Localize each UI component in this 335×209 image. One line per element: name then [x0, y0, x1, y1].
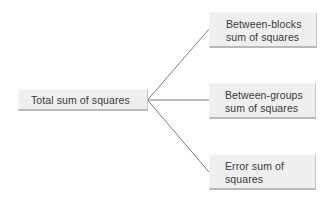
node-between-groups-sum-of-squares: Between-groups sum of squares — [209, 83, 316, 119]
node-error-line2: squares — [225, 173, 315, 186]
connector-to-error — [148, 100, 210, 172]
node-between-groups-line1: Between-groups — [225, 89, 315, 102]
node-between-groups-line2: sum of squares — [225, 102, 315, 115]
connector-to-between-blocks — [148, 28, 211, 100]
node-between-blocks-sum-of-squares: Between-blocks sum of squares — [209, 12, 317, 48]
node-error-line1: Error sum of — [225, 160, 315, 173]
node-total-label: Total sum of squares — [31, 94, 147, 107]
node-error-sum-of-squares: Error sum of squares — [209, 154, 316, 190]
node-between-blocks-line1: Between-blocks — [226, 18, 316, 31]
sum-of-squares-diagram: Total sum of squares Between-blocks sum … — [0, 0, 335, 209]
node-between-blocks-line2: sum of squares — [226, 31, 316, 44]
node-total-sum-of-squares: Total sum of squares — [18, 89, 148, 111]
